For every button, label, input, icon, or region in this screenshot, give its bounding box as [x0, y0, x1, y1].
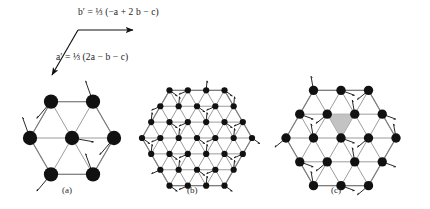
panel-a: [23, 81, 122, 191]
panel-c: [275, 76, 401, 195]
figure-canvas: b′ = ⅓ (−a + 2 b − c) a′ = ⅓ (2a − b − c…: [0, 0, 430, 209]
lattice-panels: [0, 0, 430, 209]
panel-a-caption: (a): [62, 185, 72, 195]
panel-b: [139, 81, 260, 191]
panel-c-caption: (c): [331, 185, 341, 195]
panel-b-caption: (b): [187, 185, 198, 195]
